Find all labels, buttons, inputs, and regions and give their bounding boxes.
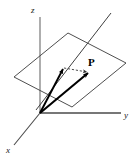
figure-background (0, 0, 140, 159)
x-axis-label: x (5, 145, 10, 155)
point-p-label: P (88, 56, 95, 68)
z-axis-label: z (30, 5, 35, 15)
y-axis-label: y (123, 110, 128, 120)
vector-diagram-figure: z y x P (0, 0, 140, 159)
diagram-canvas: z y x P (0, 0, 140, 159)
